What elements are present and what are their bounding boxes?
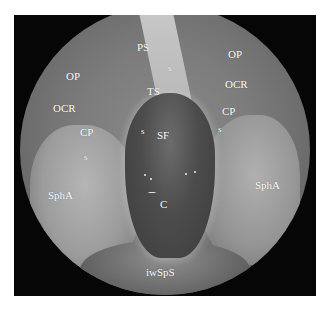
label-ps: PS xyxy=(137,42,149,53)
sellar-floor xyxy=(125,93,215,258)
label-c: C xyxy=(160,199,167,210)
label-s-septum: s xyxy=(168,64,172,73)
reflection-speck xyxy=(144,174,146,176)
sphenoid-septum xyxy=(137,15,192,105)
label-s-left-sf: s xyxy=(141,127,145,136)
label-spha-right: SphA xyxy=(255,180,280,191)
reflection-speck xyxy=(148,192,156,193)
reflection-speck xyxy=(150,178,152,180)
label-cp-left: CP xyxy=(80,127,93,138)
reflection-speck xyxy=(194,171,196,173)
endoscope-frame xyxy=(14,15,316,296)
right-lateral-wall xyxy=(200,115,300,265)
label-sf: SF xyxy=(157,130,169,141)
label-s-right: s xyxy=(218,125,222,134)
label-op-left: OP xyxy=(66,71,80,82)
reflection-speck xyxy=(185,173,187,175)
label-ocr-right: OCR xyxy=(225,79,248,90)
label-cp-right: CP xyxy=(222,106,235,117)
label-ts: TS xyxy=(147,86,160,97)
label-iwsps: iwSpS xyxy=(146,267,175,278)
label-spha-left: SphA xyxy=(48,190,73,201)
label-ocr-left: OCR xyxy=(53,103,76,114)
label-op-right: OP xyxy=(228,49,242,60)
label-s-left-lower: s xyxy=(84,153,88,162)
endoscopic-view xyxy=(20,15,310,295)
